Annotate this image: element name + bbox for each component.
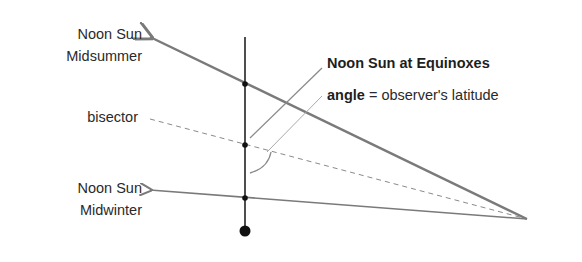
midwinter-ray — [150, 190, 527, 219]
angle-leader-line — [267, 96, 322, 152]
intersection-dot-midwinter — [242, 195, 248, 201]
equinox-leader-line — [250, 68, 322, 138]
bisector-label: bisector — [87, 108, 138, 126]
angle-label: angle = observer's latitude — [327, 86, 499, 104]
intersection-dot-midsummer — [242, 81, 248, 87]
midwinter-label: Noon Sun Midwinter — [78, 179, 143, 219]
angle-arc — [250, 152, 271, 173]
equinox-label: Noon Sun at Equinoxes — [327, 54, 490, 72]
observer-base-dot — [240, 226, 251, 237]
midsummer-label: Noon Sun Midsummer — [66, 25, 142, 65]
intersection-dot-equinox — [242, 142, 248, 148]
